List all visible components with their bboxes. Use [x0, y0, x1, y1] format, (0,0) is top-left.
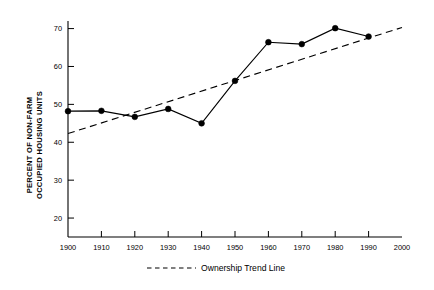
y-tick-label-20: 20 — [54, 214, 62, 223]
chart-container: 203040506070 190019101920193019401950196… — [0, 0, 434, 290]
x-tick-label-1930: 1930 — [160, 243, 176, 252]
housing-percent-line — [68, 28, 369, 123]
x-tick-label-1900: 1900 — [60, 243, 76, 252]
data-point-1910 — [99, 108, 105, 114]
y-tick-label-40: 40 — [54, 138, 62, 147]
data-point-1960 — [266, 39, 272, 45]
data-point-1980 — [332, 25, 338, 31]
data-point-1930 — [165, 106, 171, 112]
x-tick-label-1950: 1950 — [227, 243, 243, 252]
data-point-1970 — [299, 41, 305, 47]
x-tick-label-1980: 1980 — [327, 243, 343, 252]
y-axis-title: PERCENT OF NON-FARM OCCUPIED HOUSING UNI… — [25, 91, 44, 199]
data-point-1900 — [65, 108, 71, 114]
y-axis: 203040506070 — [54, 21, 74, 237]
y-tick-label-30: 30 — [54, 176, 62, 185]
y-tick-label-60: 60 — [54, 62, 62, 71]
x-axis-ticks — [101, 231, 368, 237]
y-axis-title-line-1: PERCENT OF NON-FARM — [25, 97, 34, 194]
housing-percent-markers — [65, 25, 371, 126]
x-axis-tick-labels: 1900191019201930194019501960197019801990… — [60, 243, 410, 252]
x-tick-label-2000: 2000 — [394, 243, 410, 252]
data-point-1920 — [132, 114, 138, 120]
x-tick-label-1920: 1920 — [127, 243, 143, 252]
legend-label-ownership-trend-line: Ownership Trend Line — [201, 263, 285, 273]
y-tick-label-50: 50 — [54, 100, 62, 109]
x-tick-label-1960: 1960 — [260, 243, 276, 252]
y-axis-tick-labels: 203040506070 — [54, 24, 62, 222]
data-point-1990 — [366, 34, 372, 40]
line-chart: 203040506070 190019101920193019401950196… — [0, 0, 434, 290]
legend: Ownership Trend Line — [147, 263, 285, 273]
x-tick-label-1940: 1940 — [193, 243, 209, 252]
x-axis: 1900191019201930194019501960197019801990… — [60, 231, 410, 252]
data-point-1940 — [199, 120, 205, 126]
y-axis-ticks — [68, 29, 74, 218]
x-tick-label-1910: 1910 — [93, 243, 109, 252]
data-point-1950 — [232, 78, 238, 84]
y-axis-title-line-2: OCCUPIED HOUSING UNITS — [35, 91, 44, 199]
y-tick-label-70: 70 — [54, 24, 62, 33]
x-tick-label-1990: 1990 — [360, 243, 376, 252]
x-tick-label-1970: 1970 — [294, 243, 310, 252]
